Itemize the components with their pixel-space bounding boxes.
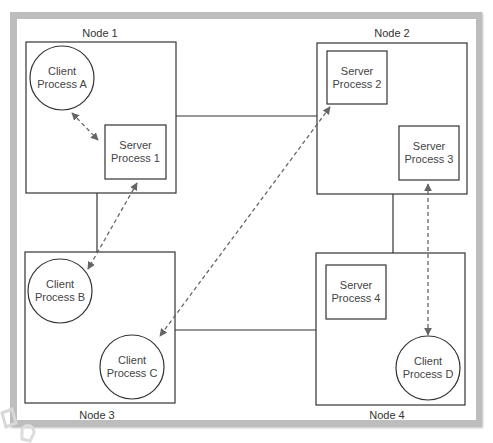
client-process-c-line2: Process C	[107, 367, 158, 380]
client-process-d-line1: Client	[414, 355, 442, 368]
client-process-d-line2: Process D	[403, 368, 454, 381]
client-process-a-line1: Client	[48, 65, 76, 78]
server-process-4-label: Server Process 4	[326, 265, 386, 319]
node1-label: Node 1	[76, 27, 124, 40]
client-process-b-line1: Client	[46, 278, 74, 291]
server-process-1-line2: Process 1	[111, 152, 160, 165]
server-process-1-label: Server Process 1	[105, 125, 166, 179]
server-process-3-line1: Server	[413, 140, 445, 153]
server-process-3-label: Server Process 3	[399, 126, 459, 180]
comm-arrow-sp2-c	[160, 107, 330, 336]
comm-arrow-sp1-b	[88, 183, 137, 269]
node3-label: Node 3	[73, 409, 121, 422]
client-process-d-label: Client Process D	[396, 336, 460, 400]
client-process-c-line1: Client	[118, 354, 146, 367]
client-process-b-label: Client Process B	[28, 259, 92, 323]
server-process-2-line1: Server	[341, 65, 373, 78]
node2-label: Node 2	[368, 27, 416, 40]
client-process-b-line2: Process B	[35, 291, 85, 304]
client-process-c-label: Client Process C	[100, 335, 164, 399]
client-process-a-line2: Process A	[37, 78, 87, 91]
server-process-4-line2: Process 4	[332, 292, 381, 305]
client-process-a-label: Client Process A	[30, 46, 94, 110]
node4-label: Node 4	[363, 409, 411, 422]
server-process-1-line1: Server	[119, 139, 151, 152]
server-process-4-line1: Server	[340, 279, 372, 292]
watermark-decoration	[0, 405, 40, 443]
comm-arrow-a-sp1	[72, 113, 98, 140]
server-process-2-line2: Process 2	[333, 78, 382, 91]
server-process-2-label: Server Process 2	[327, 51, 387, 104]
server-process-3-line2: Process 3	[405, 153, 454, 166]
